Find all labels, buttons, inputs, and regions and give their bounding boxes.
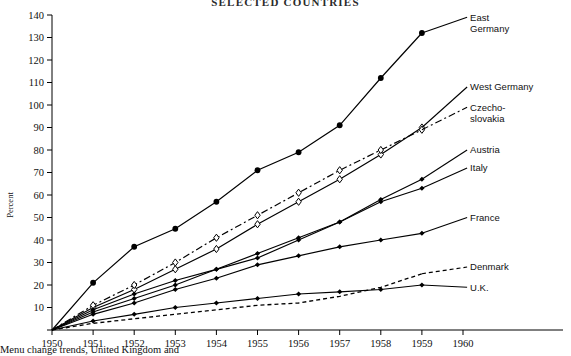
line-chart-plot: 102030405060708090100110120130140Percent… bbox=[0, 0, 571, 356]
data-point-marker bbox=[173, 259, 178, 266]
series-line-west-germany bbox=[52, 128, 422, 331]
y-tick-label: 20 bbox=[34, 280, 45, 291]
series-label-west-germany: West Germany bbox=[470, 81, 533, 92]
series-label-denmark: Denmark bbox=[470, 261, 509, 272]
data-point-marker bbox=[132, 291, 137, 296]
series-leader-line bbox=[422, 17, 467, 33]
series-leader-line bbox=[422, 218, 467, 234]
data-point-marker bbox=[337, 244, 342, 249]
data-point-marker bbox=[132, 281, 137, 288]
series-line-italy bbox=[52, 188, 422, 330]
figure-caption: Menu change trends, United Kingdom and bbox=[0, 344, 571, 355]
data-point-marker bbox=[132, 296, 137, 301]
y-tick-label: 30 bbox=[34, 257, 45, 268]
series-label-italy: Italy bbox=[470, 162, 488, 173]
y-axis-label: Percent bbox=[5, 192, 15, 218]
data-point-marker bbox=[132, 300, 137, 305]
data-point-marker bbox=[296, 189, 301, 196]
y-tick-label: 40 bbox=[34, 235, 45, 246]
data-point-marker bbox=[214, 300, 219, 305]
data-point-marker bbox=[90, 280, 96, 286]
series-label-east-germany-line2: Germany bbox=[470, 23, 509, 34]
y-tick-label: 50 bbox=[34, 212, 45, 223]
series-leader-line bbox=[422, 150, 467, 179]
data-point-marker bbox=[214, 199, 220, 205]
y-tick-label: 90 bbox=[34, 122, 45, 133]
data-point-marker bbox=[172, 226, 178, 232]
data-point-marker bbox=[337, 122, 343, 128]
y-tick-label: 10 bbox=[34, 302, 45, 313]
y-tick-label: 80 bbox=[34, 145, 45, 156]
data-point-marker bbox=[337, 167, 342, 174]
data-point-marker bbox=[173, 305, 178, 310]
data-point-marker bbox=[132, 312, 137, 317]
series-label-east-germany: East bbox=[470, 12, 489, 23]
data-point-marker bbox=[214, 267, 219, 272]
series-line-austria bbox=[52, 179, 422, 330]
data-point-marker bbox=[131, 244, 137, 250]
y-tick-label: 100 bbox=[28, 100, 44, 111]
series-label-france: France bbox=[470, 212, 500, 223]
data-point-marker bbox=[173, 278, 178, 283]
data-point-marker bbox=[214, 276, 219, 281]
data-point-marker bbox=[296, 198, 301, 205]
series-leader-line bbox=[422, 285, 467, 287]
series-line-denmark bbox=[52, 274, 422, 330]
chart-root: SELECTED COUNTRIES 102030405060708090100… bbox=[0, 0, 571, 356]
data-point-marker bbox=[173, 287, 178, 292]
data-point-marker bbox=[255, 255, 260, 260]
data-point-marker bbox=[255, 262, 260, 267]
series-line-east-germany bbox=[52, 33, 422, 330]
data-point-marker bbox=[378, 75, 384, 81]
data-point-marker bbox=[337, 289, 342, 294]
series-label-austria: Austria bbox=[470, 144, 500, 155]
data-point-marker bbox=[337, 219, 342, 224]
data-point-marker bbox=[173, 282, 178, 287]
data-point-marker bbox=[255, 212, 260, 219]
series-leader-line bbox=[422, 267, 467, 274]
series-leader-line bbox=[422, 107, 467, 130]
data-point-marker bbox=[214, 234, 219, 241]
data-point-marker bbox=[296, 291, 301, 296]
data-point-marker bbox=[255, 167, 261, 173]
series-label-u-k: U.K. bbox=[470, 282, 488, 293]
series-leader-line bbox=[422, 87, 467, 128]
series-leader-line bbox=[422, 168, 467, 188]
data-point-marker bbox=[296, 149, 302, 155]
y-tick-label: 120 bbox=[28, 55, 44, 66]
y-tick-label: 60 bbox=[34, 190, 45, 201]
data-point-marker bbox=[296, 253, 301, 258]
data-point-marker bbox=[378, 237, 383, 242]
y-tick-label: 70 bbox=[34, 167, 45, 178]
y-tick-label: 130 bbox=[28, 32, 44, 43]
series-label-czechoslovakia-line2: slovakia bbox=[470, 113, 505, 124]
data-point-marker bbox=[214, 245, 219, 252]
data-point-marker bbox=[337, 176, 342, 183]
data-point-marker bbox=[255, 251, 260, 256]
series-line-france bbox=[52, 233, 422, 330]
y-tick-label: 110 bbox=[29, 77, 44, 88]
data-point-marker bbox=[255, 296, 260, 301]
series-line-czechoslovakia bbox=[52, 130, 422, 330]
data-point-marker bbox=[378, 146, 383, 153]
data-point-marker bbox=[255, 221, 260, 228]
series-label-czechoslovakia: Czecho- bbox=[470, 102, 505, 113]
y-tick-label: 140 bbox=[28, 10, 44, 21]
